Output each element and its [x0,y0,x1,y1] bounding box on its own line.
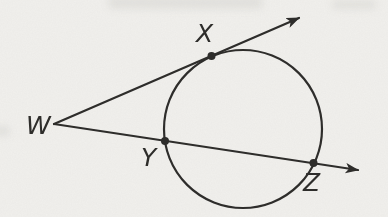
point-z-dot [310,159,318,167]
geometry-diagram: W X Y Z [0,0,388,217]
label-z: Z [302,168,321,197]
label-x: X [194,19,214,48]
paper-noise-texture [0,0,388,217]
point-y-dot [161,137,169,145]
scanned-figure: W X Y Z [0,0,388,217]
label-y: Y [141,143,158,172]
point-x-dot [208,52,216,60]
label-w: W [26,111,52,140]
